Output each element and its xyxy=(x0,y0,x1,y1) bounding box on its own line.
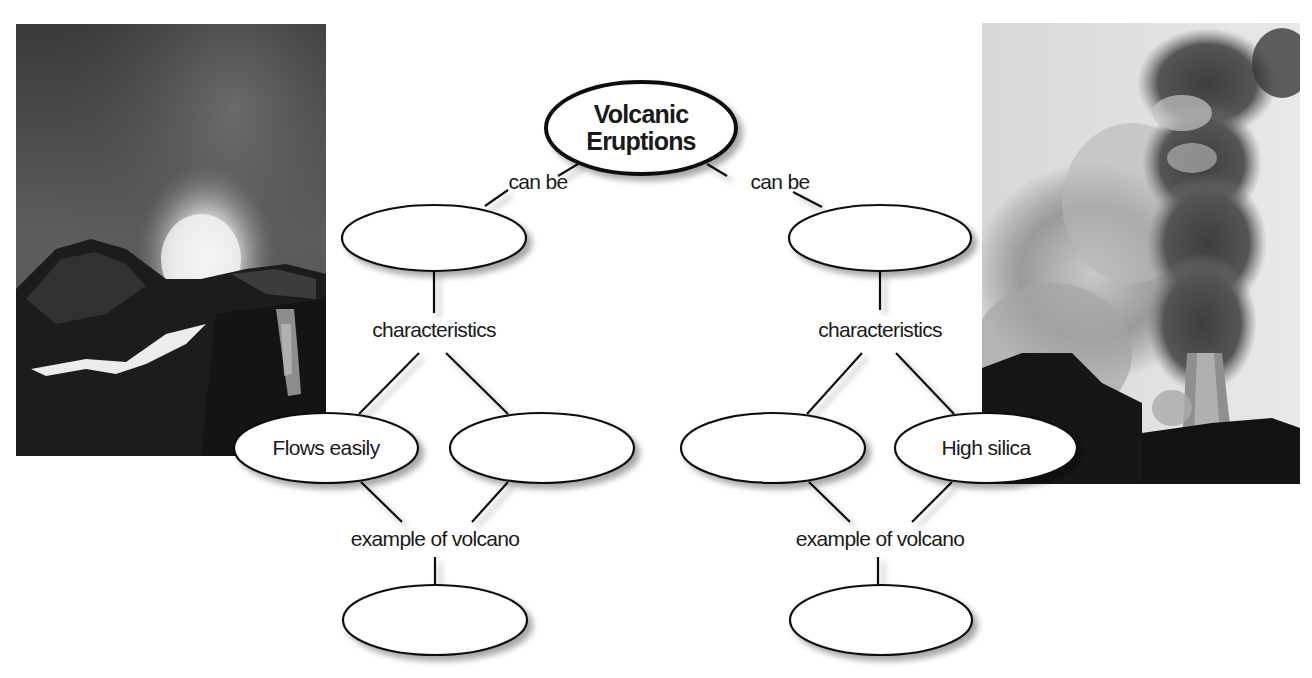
left-can-be-label: can be xyxy=(509,170,568,194)
right-char-node-2-label: High silica xyxy=(941,436,1030,460)
connector-line xyxy=(912,482,952,522)
connector-line xyxy=(896,353,954,414)
left-char-node-1-label: Flows easily xyxy=(272,436,379,460)
connector-line xyxy=(359,353,419,414)
left-char-node-2[interactable] xyxy=(450,413,634,483)
root-label-line1: Volcanic xyxy=(594,101,689,128)
connector-line xyxy=(485,190,508,206)
connector-line xyxy=(807,353,862,414)
left-example-label: example of volcano xyxy=(351,527,519,551)
left-characteristics-label: characteristics xyxy=(372,318,496,342)
root-node: Volcanic Eruptions xyxy=(546,82,736,174)
right-example-node[interactable] xyxy=(790,585,972,655)
root-label-line2: Eruptions xyxy=(586,128,695,155)
right-type-node[interactable] xyxy=(789,205,971,271)
connector-line xyxy=(472,482,508,522)
left-example-node[interactable] xyxy=(343,585,527,655)
left-type-node[interactable] xyxy=(342,205,526,271)
connector-line xyxy=(361,482,402,522)
connector-line xyxy=(446,353,508,414)
connector-line xyxy=(809,482,850,522)
right-can-be-label: can be xyxy=(751,170,810,194)
right-char-node-2[interactable]: High silica xyxy=(895,413,1077,483)
right-example-label: example of volcano xyxy=(796,527,964,551)
right-characteristics-label: characteristics xyxy=(818,318,942,342)
right-char-node-1[interactable] xyxy=(681,413,865,483)
left-char-node-1[interactable]: Flows easily xyxy=(234,413,418,483)
